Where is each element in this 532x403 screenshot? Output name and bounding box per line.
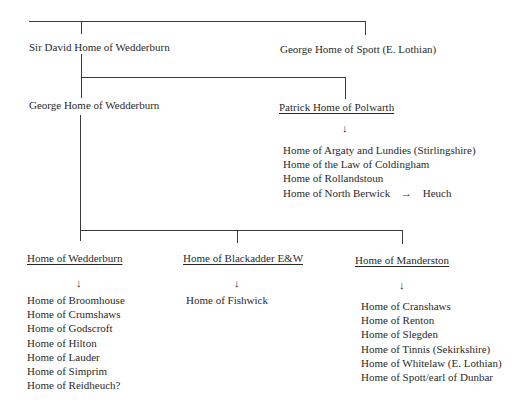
list-item: Home of North Berwick → Heuch — [283, 186, 476, 200]
down-arrow-icon: ↓ — [234, 276, 240, 290]
connector-george-wedderburn-down — [80, 115, 81, 241]
connector-top-horizontal — [29, 21, 366, 22]
list-item: Home of Cranshaws — [361, 299, 502, 313]
node-george-wedderburn: George Home of Wedderburn — [29, 98, 159, 112]
manderston-descendants: Home of Cranshaws Home of Renton Home of… — [361, 299, 502, 384]
connector-to-polwarth — [345, 77, 346, 99]
list-item: Home of Hilton — [27, 336, 125, 350]
node-sir-david: Sir David Home of Wedderburn — [29, 40, 170, 54]
list-item: Home of Lauder — [27, 350, 125, 364]
connector-to-george-spott — [365, 22, 366, 35]
list-item: Home of Slegden — [361, 327, 502, 341]
connector-third-horizontal — [80, 230, 402, 231]
list-item: Home of Renton — [361, 313, 502, 327]
connector-to-sir-david — [81, 21, 82, 34]
list-item: Home of Godscroft — [27, 321, 125, 335]
connector-sir-david-down — [81, 54, 82, 98]
list-item: Home of Broomhouse — [27, 293, 125, 307]
list-item: Home of Tinnis (Sekirkshire) — [361, 342, 502, 356]
list-item: Home of Whitelaw (E. Lothian) — [361, 356, 502, 370]
blackadder-descendants: Home of Fishwick — [186, 293, 268, 307]
north-berwick-label: Home of North Berwick — [283, 187, 390, 199]
polwarth-descendants: Home of Argaty and Lundies (Stirlingshir… — [283, 143, 476, 200]
list-item: Home of Argaty and Lundies (Stirlingshir… — [283, 143, 476, 157]
list-item: Home of Simprim — [27, 364, 125, 378]
connector-second-horizontal — [81, 77, 345, 78]
down-arrow-icon: ↓ — [76, 276, 82, 290]
node-george-spott: George Home of Spott (E. Lothian) — [280, 42, 436, 56]
list-item: Home of Fishwick — [186, 293, 268, 307]
node-patrick-polwarth: Patrick Home of Polwarth — [279, 100, 394, 114]
list-item: Home of Rollandstoun — [283, 171, 476, 185]
node-home-manderston: Home of Manderston — [355, 253, 449, 267]
list-item: Home of the Law of Coldingham — [283, 157, 476, 171]
wedderburn-descendants: Home of Broomhouse Home of Crumshaws Hom… — [27, 293, 125, 392]
list-item: Home of Reidheuch? — [27, 378, 125, 392]
connector-to-manderston — [402, 230, 403, 244]
heuch-label: Heuch — [423, 187, 452, 199]
node-home-blackadder: Home of Blackadder E&W — [183, 251, 303, 265]
down-arrow-icon: ↓ — [342, 121, 348, 135]
down-arrow-icon: ↓ — [399, 278, 405, 292]
right-arrow-icon: → — [401, 187, 412, 199]
connector-to-blackadder — [237, 230, 238, 243]
node-home-wedderburn: Home of Wedderburn — [27, 251, 122, 265]
list-item: Home of Spott/earl of Dunbar — [361, 370, 502, 384]
list-item: Home of Crumshaws — [27, 307, 125, 321]
